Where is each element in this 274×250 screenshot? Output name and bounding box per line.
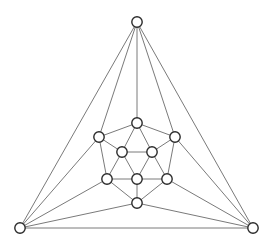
- graph-node-ml: [117, 147, 127, 157]
- graph-node-lr: [162, 174, 172, 184]
- graph-figure: [0, 0, 274, 250]
- graph-node-mr: [147, 147, 157, 157]
- graph-edge: [137, 22, 253, 228]
- graph-edge: [20, 203, 137, 228]
- graph-edge: [20, 137, 99, 228]
- graph-node-ll: [102, 174, 112, 184]
- graph-node-ur: [170, 132, 180, 142]
- graph-edge: [175, 137, 253, 228]
- graph-node-b: [132, 198, 142, 208]
- graph-node-bottomleft: [15, 223, 25, 233]
- graph-canvas: [0, 0, 274, 250]
- graph-edge: [167, 137, 175, 179]
- graph-node-ul: [94, 132, 104, 142]
- graph-edge: [167, 179, 253, 228]
- graph-edge: [20, 179, 107, 228]
- graph-node-t: [132, 118, 142, 128]
- graph-edge: [137, 203, 253, 228]
- graph-edge: [99, 137, 107, 179]
- graph-node-apex: [132, 17, 142, 27]
- graph-edge: [20, 22, 137, 228]
- graph-node-lc: [132, 174, 142, 184]
- graph-node-bottomright: [248, 223, 258, 233]
